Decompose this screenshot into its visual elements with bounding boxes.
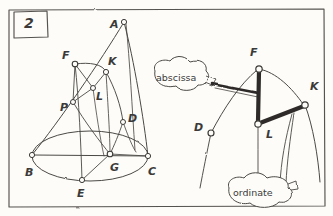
point-F-detail xyxy=(256,66,262,72)
label-E: E xyxy=(77,188,85,199)
point-L xyxy=(91,86,96,91)
label-P: P xyxy=(60,102,68,113)
point-P xyxy=(71,100,76,105)
label-L-detail: L xyxy=(266,129,273,140)
point-L-detail xyxy=(255,121,261,127)
label-C: C xyxy=(148,166,156,177)
label-B: B xyxy=(25,167,33,178)
label-A: A xyxy=(110,19,119,30)
abscissa-callout-text: abscissa xyxy=(156,73,196,83)
label-F-detail: F xyxy=(250,47,258,58)
label-F: F xyxy=(62,50,70,61)
point-K-detail xyxy=(302,102,308,108)
point-E xyxy=(79,177,84,182)
figure-canvas xyxy=(0,0,333,216)
abscissa-segment xyxy=(258,71,259,122)
point-D-detail xyxy=(208,130,214,136)
label-G: G xyxy=(110,162,119,173)
point-C xyxy=(145,153,150,158)
point-B xyxy=(29,152,34,157)
label-D: D xyxy=(128,113,137,124)
point-D xyxy=(121,120,126,125)
label-D-detail: D xyxy=(194,122,203,133)
point-K xyxy=(103,69,108,74)
label-L: L xyxy=(96,91,103,102)
ordinate-callout-text: ordinate xyxy=(233,188,273,198)
label-K: K xyxy=(108,56,117,67)
point-A xyxy=(121,19,126,24)
label-K-detail: K xyxy=(310,81,319,92)
point-G xyxy=(107,151,113,157)
panel-number: 2 xyxy=(24,15,34,31)
point-F xyxy=(72,61,78,67)
